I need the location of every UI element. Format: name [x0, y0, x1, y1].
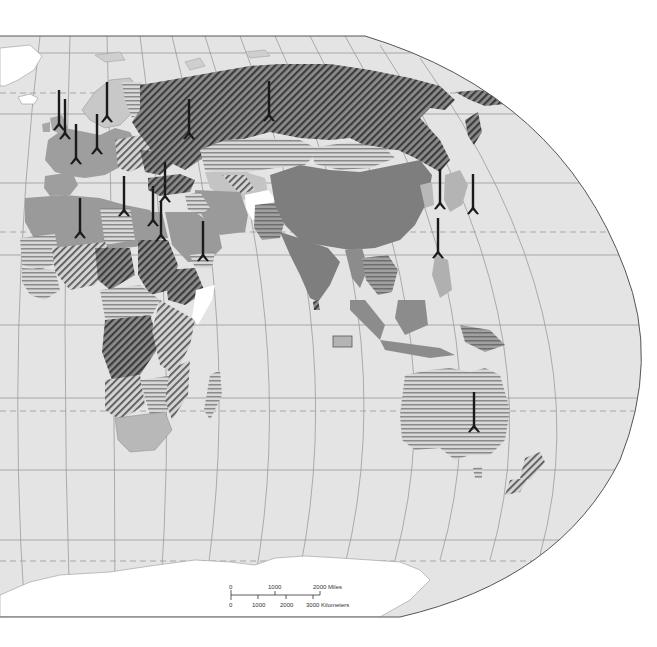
indian-ocean-marker: [333, 336, 352, 347]
scale-miles-1000: 1000: [268, 584, 282, 590]
scale-miles-2000: 2000 Miles: [313, 584, 342, 590]
libya: [100, 208, 135, 245]
map: 0 1000 2000 Miles 0 1000 2000 3000 Kilom…: [0, 0, 657, 647]
scale-km-1000: 1000: [252, 602, 266, 608]
scale-km-2000: 2000: [280, 602, 294, 608]
australia: [400, 368, 510, 460]
scale-km-3000: 3000 Kilometers: [306, 602, 349, 608]
